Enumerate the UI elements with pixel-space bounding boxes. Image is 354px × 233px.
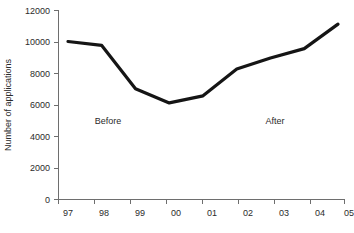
x-tick-label: 97: [63, 208, 73, 218]
x-tick-label: 98: [99, 208, 109, 218]
y-tick-label: 8000: [30, 69, 50, 79]
y-tick-label: 12000: [25, 6, 50, 16]
y-axis-title: Number of applications: [3, 58, 13, 151]
x-tick-label: 99: [135, 208, 145, 218]
chart-container: 0 2000 4000 6000 8000 10000 12000 Number…: [0, 0, 354, 233]
x-tick-label: 05: [344, 208, 354, 218]
chart-background: [0, 0, 354, 233]
line-chart: 0 2000 4000 6000 8000 10000 12000 Number…: [0, 0, 354, 233]
y-tick-label: 10000: [25, 37, 50, 47]
x-tick-label: 02: [243, 208, 253, 218]
y-tick-label: 2000: [30, 163, 50, 173]
x-tick-label: 04: [315, 208, 325, 218]
annotation-after: After: [265, 116, 284, 126]
x-tick-label: 00: [171, 208, 181, 218]
y-tick-label: 0: [45, 195, 50, 205]
annotation-before: Before: [95, 116, 122, 126]
x-tick-label: 01: [207, 208, 217, 218]
x-tick-label: 03: [279, 208, 289, 218]
y-tick-label: 4000: [30, 132, 50, 142]
y-tick-label: 6000: [30, 100, 50, 110]
